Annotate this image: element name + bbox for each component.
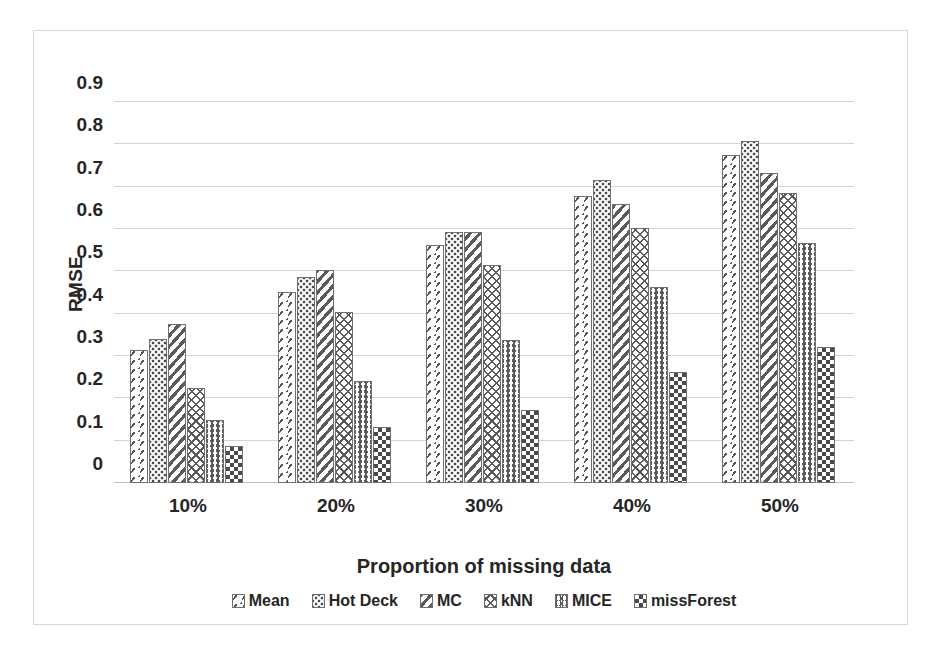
bar-group: 10% xyxy=(114,102,262,483)
legend-label: kNN xyxy=(501,592,533,610)
y-axis-tick-label: 0.9 xyxy=(77,73,103,92)
bar-missforest[interactable] xyxy=(225,446,243,483)
bar-knn[interactable] xyxy=(631,228,649,483)
legend-item-mice[interactable]: MICE xyxy=(555,592,612,610)
bar-hot-deck[interactable] xyxy=(593,180,611,483)
legend-label: Hot Deck xyxy=(329,592,398,610)
y-axis-tick-label: 0 xyxy=(92,454,103,473)
bar-hot-deck[interactable] xyxy=(149,339,167,483)
bar-mean[interactable] xyxy=(278,292,296,483)
plot-area: 00.10.20.30.40.50.60.70.80.9 10%20%30%40… xyxy=(114,102,854,483)
bar-group: 50% xyxy=(706,102,854,483)
legend-label: MICE xyxy=(572,592,612,610)
bar-missforest[interactable] xyxy=(521,410,539,483)
x-axis-tick-label: 40% xyxy=(558,495,706,517)
bar-knn[interactable] xyxy=(779,193,797,483)
bar-mean[interactable] xyxy=(130,350,148,483)
legend-item-mean[interactable]: Mean xyxy=(232,592,290,610)
legend-swatch-icon xyxy=(555,594,568,608)
legend-label: missForest xyxy=(651,592,736,610)
bar-missforest[interactable] xyxy=(373,427,391,483)
bar-hot-deck[interactable] xyxy=(741,141,759,483)
chart-frame: RMSE 00.10.20.30.40.50.60.70.80.9 10%20%… xyxy=(33,30,908,625)
bar-group: 20% xyxy=(262,102,410,483)
legend-swatch-icon xyxy=(484,594,497,608)
bar-mean[interactable] xyxy=(722,155,740,483)
bar-knn[interactable] xyxy=(187,388,205,483)
bar-mean[interactable] xyxy=(426,245,444,483)
x-axis-tick-label: 50% xyxy=(706,495,854,517)
x-axis-title: Proportion of missing data xyxy=(114,555,854,578)
bar-mice[interactable] xyxy=(798,243,816,483)
bar-missforest[interactable] xyxy=(669,372,687,483)
bar-knn[interactable] xyxy=(483,265,501,483)
bar-knn[interactable] xyxy=(335,312,353,483)
y-axis-tick-label: 0.5 xyxy=(77,242,103,261)
y-axis-tick-label: 0.8 xyxy=(77,115,103,134)
legend-swatch-icon xyxy=(634,594,647,608)
bar-hot-deck[interactable] xyxy=(445,232,463,483)
y-axis-tick-label: 0.3 xyxy=(77,327,103,346)
legend-swatch-icon xyxy=(312,594,325,608)
bar-mc[interactable] xyxy=(464,232,482,483)
legend-item-hot-deck[interactable]: Hot Deck xyxy=(312,592,398,610)
x-axis-tick-label: 10% xyxy=(114,495,262,517)
legend-item-knn[interactable]: kNN xyxy=(484,592,533,610)
y-axis-tick-label: 0.6 xyxy=(77,200,103,219)
legend-swatch-icon xyxy=(232,594,245,608)
legend-label: MC xyxy=(437,592,462,610)
bar-mice[interactable] xyxy=(650,287,668,483)
legend-item-mc[interactable]: MC xyxy=(420,592,462,610)
bar-group: 30% xyxy=(410,102,558,483)
bar-missforest[interactable] xyxy=(817,347,835,483)
x-axis-tick-label: 30% xyxy=(410,495,558,517)
bar-mice[interactable] xyxy=(354,381,372,483)
y-axis-tick-label: 0.7 xyxy=(77,158,103,177)
bar-group: 40% xyxy=(558,102,706,483)
y-axis-tick-label: 0.2 xyxy=(77,369,103,388)
legend-swatch-icon xyxy=(420,594,433,608)
bar-mc[interactable] xyxy=(760,173,778,483)
bar-mc[interactable] xyxy=(316,270,334,483)
y-axis-tick-label: 0.1 xyxy=(77,412,103,431)
legend-item-missforest[interactable]: missForest xyxy=(634,592,736,610)
bar-mc[interactable] xyxy=(612,204,630,483)
bar-mice[interactable] xyxy=(502,340,520,483)
bar-mice[interactable] xyxy=(206,420,224,483)
bar-mc[interactable] xyxy=(168,324,186,483)
x-axis-tick-label: 20% xyxy=(262,495,410,517)
legend-label: Mean xyxy=(249,592,290,610)
chart-legend: MeanHot DeckMCkNNMICEmissForest xyxy=(114,592,854,610)
bar-hot-deck[interactable] xyxy=(297,277,315,483)
bar-mean[interactable] xyxy=(574,196,592,483)
y-axis-tick-label: 0.4 xyxy=(77,285,103,304)
